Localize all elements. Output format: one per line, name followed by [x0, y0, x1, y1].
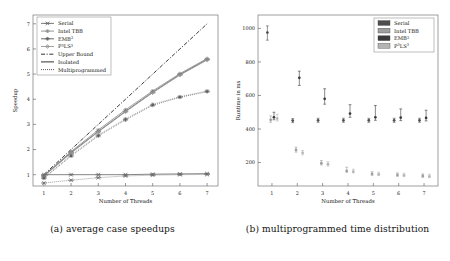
y-tick-label-b-2: 600 — [245, 92, 255, 98]
x-tick-label-b-6: 7 — [422, 190, 425, 196]
datapoint-b-5-3 — [403, 173, 406, 176]
panel-b-distribution: 20040060080010001234567Number of Threads… — [225, 0, 450, 215]
datapoint-b-1-1 — [295, 147, 298, 152]
datapoint-b-0-3 — [276, 114, 279, 121]
chart-b-svg: 20040060080010001234567Number of Threads… — [225, 0, 450, 215]
median-marker — [403, 174, 406, 177]
median-marker — [273, 116, 276, 119]
y-tick-label-a-2: 3 — [27, 121, 30, 127]
datapoint-b-2-0 — [317, 118, 320, 122]
series-line-a-4 — [44, 91, 207, 178]
x-tick-label-a-2: 3 — [97, 190, 100, 196]
x-tick-label-b-4: 5 — [372, 190, 375, 196]
y-tick-label-b-1: 400 — [245, 126, 255, 132]
y-tick-label-b-4: 1000 — [242, 25, 255, 31]
median-marker — [298, 77, 301, 80]
median-marker — [301, 151, 304, 154]
median-marker — [345, 170, 348, 173]
caption-a: (a) average case speedups — [0, 222, 225, 244]
datapoint-b-6-3 — [428, 174, 431, 177]
median-marker — [352, 170, 355, 173]
y-tick-label-a-1: 2 — [27, 146, 30, 152]
series-marker-a-5-6 — [204, 90, 209, 94]
x-tick-label-b-5: 6 — [397, 190, 400, 196]
y-axis-label-b: Runtime in ms — [235, 80, 241, 120]
datapoint-b-5-2 — [399, 109, 402, 121]
median-marker — [377, 173, 380, 176]
datapoint-b-1-3 — [301, 150, 304, 154]
x-tick-label-a-4: 5 — [151, 190, 154, 196]
datapoint-b-0-1 — [269, 116, 272, 122]
median-marker — [342, 119, 345, 122]
legend-a-label-6: Multiprogrammed — [58, 67, 107, 74]
figure-container: 12345671234567Number of ThreadsSpeedupSe… — [0, 0, 450, 261]
series-line-a-5 — [44, 92, 207, 179]
x-tick-label-a-5: 6 — [178, 190, 181, 196]
legend-b-swatch-0 — [378, 21, 390, 26]
median-marker — [269, 118, 272, 121]
median-marker — [393, 119, 396, 122]
datapoint-b-6-0 — [418, 118, 421, 122]
median-marker — [399, 116, 402, 119]
x-tick-label-a-6: 7 — [206, 190, 209, 196]
x-tick-label-b-3: 4 — [346, 190, 349, 196]
median-marker — [418, 119, 421, 122]
datapoint-b-1-2 — [298, 71, 301, 85]
median-marker — [428, 175, 431, 178]
chart-a-svg: 12345671234567Number of ThreadsSpeedupSe… — [0, 0, 225, 215]
series-marker-a-6-1 — [68, 173, 74, 177]
datapoint-b-3-1 — [345, 167, 348, 172]
legend-a-label-4: Upper Bound — [58, 51, 94, 58]
y-tick-label-b-3: 800 — [245, 59, 255, 65]
y-tick-label-a-6: 7 — [27, 21, 30, 27]
legend-b-swatch-1 — [378, 28, 390, 33]
x-tick-label-a-0: 1 — [42, 190, 45, 196]
x-tick-label-a-3: 4 — [124, 190, 127, 196]
series-marker-a-7-1 — [68, 178, 74, 182]
median-marker — [367, 119, 370, 122]
y-tick-label-a-4: 5 — [27, 71, 30, 77]
datapoint-b-2-2 — [323, 89, 326, 104]
series-marker-a-5-5 — [177, 95, 182, 99]
x-tick-label-b-0: 1 — [270, 190, 273, 196]
datapoint-b-4-3 — [377, 172, 380, 175]
datapoint-b-0-2 — [273, 112, 276, 120]
x-tick-label-a-1: 2 — [69, 190, 72, 196]
legend-b-label-0: Serial — [394, 20, 410, 26]
datapoint-b-2-1 — [320, 161, 323, 165]
datapoint-b-5-1 — [396, 173, 399, 176]
datapoint-b-6-2 — [425, 110, 428, 121]
datapoint-b-5-0 — [393, 118, 396, 122]
legend-b-swatch-3 — [378, 43, 390, 48]
legend-a-label-5: Isolated — [58, 59, 80, 65]
y-axis-label-a: Speedup — [12, 88, 19, 112]
median-marker — [349, 112, 352, 115]
median-marker — [396, 174, 399, 177]
median-marker — [320, 162, 323, 165]
datapoint-b-4-1 — [371, 172, 374, 176]
datapoint-b-0-0 — [266, 26, 269, 40]
legend-b-label-1: Intel TBB — [394, 28, 419, 34]
datapoint-b-6-1 — [421, 174, 424, 177]
panel-a-speedups: 12345671234567Number of ThreadsSpeedupSe… — [0, 0, 225, 215]
legend-b-swatch-2 — [378, 36, 390, 41]
x-axis-label-a: Number of Threads — [99, 198, 153, 204]
median-marker — [323, 97, 326, 100]
x-axis-label-b: Number of Threads — [321, 198, 375, 204]
median-marker — [276, 117, 279, 120]
median-marker — [266, 31, 269, 34]
y-tick-label-a-5: 6 — [27, 46, 30, 52]
y-tick-label-a-3: 4 — [27, 96, 30, 102]
legend-a-label-0: Serial — [58, 20, 74, 26]
median-marker — [295, 149, 298, 152]
median-marker — [327, 163, 330, 166]
datapoint-b-2-3 — [327, 162, 330, 166]
datapoint-b-3-0 — [342, 118, 345, 122]
legend-a-label-1: Intel TBB — [58, 28, 83, 34]
x-tick-label-b-2: 3 — [321, 190, 324, 196]
y-tick-label-a-0: 1 — [27, 172, 30, 178]
datapoint-b-4-2 — [374, 106, 377, 121]
caption-b: (b) multiprogrammed time distribution — [225, 222, 450, 244]
datapoint-b-1-0 — [291, 119, 294, 123]
datapoint-b-4-0 — [367, 118, 370, 122]
